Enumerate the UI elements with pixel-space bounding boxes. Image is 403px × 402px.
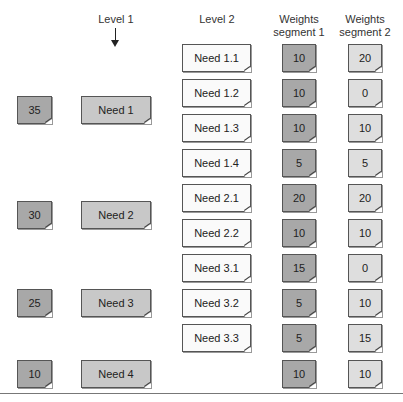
seg2-weight-box: 0 <box>348 254 382 282</box>
level2-need-box: Need 2.1 <box>182 184 251 212</box>
level1-need-box: Need 3 <box>81 289 151 317</box>
seg2-weight-box: 15 <box>348 324 382 352</box>
level2-need-box: Need 3.2 <box>182 289 251 317</box>
level2-need-box: Need 1.2 <box>182 79 251 107</box>
seg2-weight-box: 0 <box>348 79 382 107</box>
seg1-weight-box: 10 <box>282 79 316 107</box>
seg2-weight-box: 5 <box>348 149 382 177</box>
level1-header: Level 1 <box>95 13 137 26</box>
seg1-weight-box: 15 <box>282 254 316 282</box>
seg1-header-line2: segment 1 <box>270 26 328 39</box>
seg1-weight-box: 5 <box>282 149 316 177</box>
seg1-weight-box: 10 <box>282 219 316 247</box>
seg1-header: Weights segment 1 <box>270 13 328 39</box>
seg1-weight-box: 20 <box>282 184 316 212</box>
seg2-weight-box: 10 <box>348 114 382 142</box>
seg2-header-line1: Weights <box>336 13 394 26</box>
level1-weight-box: 10 <box>17 360 52 388</box>
seg1-weight-box: 10 <box>282 114 316 142</box>
level1-weight-box: 35 <box>17 96 52 124</box>
level2-need-box: Need 1.3 <box>182 114 251 142</box>
level2-need-box: Need 1.1 <box>182 44 251 72</box>
seg1-weight-box: 10 <box>282 360 316 388</box>
seg2-weight-box: 20 <box>348 184 382 212</box>
seg1-header-line1: Weights <box>270 13 328 26</box>
level1-need-box: Need 1 <box>81 96 151 124</box>
level2-header: Level 2 <box>190 13 244 26</box>
seg1-weight-box: 5 <box>282 324 316 352</box>
level2-need-box: Need 3.3 <box>182 324 251 352</box>
seg2-weight-box: 10 <box>348 289 382 317</box>
level1-need-box: Need 4 <box>81 360 151 388</box>
seg2-weight-box: 10 <box>348 219 382 247</box>
seg2-weight-box: 20 <box>348 44 382 72</box>
level2-need-box: Need 1.4 <box>182 149 251 177</box>
seg2-header: Weights segment 2 <box>336 13 394 39</box>
down-arrow-icon <box>115 28 116 42</box>
level1-weight-box: 30 <box>17 201 52 229</box>
level1-need-box: Need 2 <box>81 201 151 229</box>
level2-need-box: Need 2.2 <box>182 219 251 247</box>
level1-weight-box: 25 <box>17 289 52 317</box>
seg2-header-line2: segment 2 <box>336 26 394 39</box>
seg1-weight-box: 5 <box>282 289 316 317</box>
level2-need-box: Need 3.1 <box>182 254 251 282</box>
seg2-weight-box: 10 <box>348 360 382 388</box>
seg1-weight-box: 10 <box>282 44 316 72</box>
bottom-divider <box>0 393 403 394</box>
